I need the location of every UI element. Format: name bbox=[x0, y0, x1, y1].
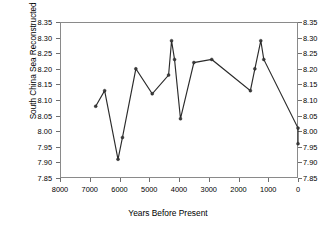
series-points bbox=[94, 39, 299, 161]
data-point bbox=[121, 136, 124, 139]
data-series-layer bbox=[0, 0, 336, 231]
data-point bbox=[249, 89, 252, 92]
data-point bbox=[262, 58, 265, 61]
data-point bbox=[259, 39, 262, 42]
chart-container: South China Sea Reconstructed pH 7.857.8… bbox=[0, 0, 336, 231]
data-point bbox=[134, 67, 137, 70]
data-point bbox=[297, 142, 300, 145]
data-point bbox=[151, 92, 154, 95]
data-point bbox=[179, 117, 182, 120]
data-point bbox=[173, 58, 176, 61]
x-axis-title: Years Before Present bbox=[0, 208, 336, 218]
data-point bbox=[103, 89, 106, 92]
data-point bbox=[192, 61, 195, 64]
data-point bbox=[167, 74, 170, 77]
data-point bbox=[210, 58, 213, 61]
data-point bbox=[170, 39, 173, 42]
data-point bbox=[94, 105, 97, 108]
series-line bbox=[96, 41, 298, 160]
data-point bbox=[117, 158, 120, 161]
data-point bbox=[253, 67, 256, 70]
data-point bbox=[297, 127, 300, 130]
